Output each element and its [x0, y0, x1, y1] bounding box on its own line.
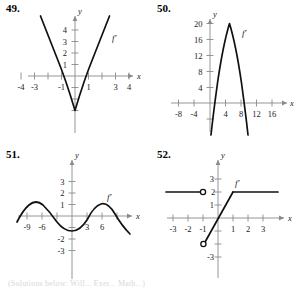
y-tick-label: 2 — [60, 188, 64, 198]
graph-50: -8 -4 4 8 12 16 4 8 12 16 20 x y f′ — [151, 0, 302, 146]
x-tick-label: -4 — [190, 109, 198, 119]
y-tick-label: 1 — [60, 200, 64, 210]
x-tick-label: -4 — [17, 82, 25, 92]
y-tick-label: 16 — [194, 35, 203, 45]
curve-fprime — [17, 202, 130, 234]
x-tick-label: 3 — [261, 224, 265, 234]
y-tick-label: 3 — [63, 37, 67, 47]
y-axis-arrow — [70, 160, 75, 165]
curve-label: f′ — [107, 192, 113, 202]
problem-grid: 49. — [0, 0, 302, 292]
open-point-lower — [201, 241, 206, 246]
x-tick-label: -1 — [199, 224, 206, 234]
y-tick-label: -2 — [57, 234, 64, 244]
x-axis-arrow — [279, 216, 284, 221]
problem-cell-50: 50. — [151, 0, 302, 146]
x-tick-label: 3 — [85, 222, 89, 232]
graph-50-svg: -8 -4 4 8 12 16 4 8 12 16 20 x y f′ — [151, 0, 302, 146]
x-tick-label: 16 — [268, 109, 277, 119]
y-tick-label: 1 — [63, 60, 67, 70]
x-axis-label: x — [289, 98, 294, 108]
y-tick-label: 8 — [198, 67, 202, 77]
x-tick-label: -6 — [38, 222, 45, 232]
x-tick-label: 8 — [239, 109, 243, 119]
page-caption: (Solutions below: Will... Exer... Math..… — [8, 279, 145, 288]
x-axis-label: x — [287, 213, 292, 223]
y-tick-label: 2 — [211, 187, 215, 197]
y-axis-arrow — [73, 16, 78, 21]
open-point-upper — [200, 189, 205, 194]
x-tick-label: 4 — [223, 109, 228, 119]
x-tick-label: 2 — [246, 224, 250, 234]
x-tick-label: -3 — [169, 224, 176, 234]
graph-52-svg: -3 -2 -1 1 2 3 1 2 3 -3 x y f′ — [151, 146, 302, 292]
x-tick-label: 4 — [127, 82, 132, 92]
y-tick-label: 20 — [194, 19, 203, 29]
graph-51: -9 -6 3 6 1 2 3 -2 -3 x y f′ — [0, 146, 151, 292]
y-tick-label: 12 — [194, 51, 203, 61]
y-axis-label: y — [77, 6, 82, 16]
graph-51-svg: -9 -6 3 6 1 2 3 -2 -3 x y f′ — [0, 146, 151, 292]
x-axis-arrow — [127, 214, 132, 219]
x-tick-label: -9 — [23, 222, 30, 232]
y-axis-arrow — [216, 160, 221, 165]
graph-52: -3 -2 -1 1 2 3 1 2 3 -3 x y f′ — [151, 146, 302, 292]
x-tick-label: -2 — [184, 224, 191, 234]
curve-label: f′ — [242, 28, 248, 38]
x-tick-label: -8 — [175, 109, 182, 119]
y-tick-label: 4 — [198, 83, 203, 93]
x-tick-label: 1 — [231, 224, 235, 234]
y-tick-label: 3 — [60, 177, 64, 187]
y-tick-label: -3 — [207, 252, 214, 262]
x-tick-label: 6 — [100, 222, 104, 232]
y-axis-label: y — [212, 9, 217, 19]
x-axis-label: x — [136, 71, 141, 81]
y-axis-label: y — [74, 150, 79, 160]
x-axis-label: x — [135, 211, 140, 221]
x-tick-label: 3 — [113, 82, 117, 92]
graph-49: -4 -3 -1 1 3 4 1 2 3 4 x y f′ — [0, 0, 151, 146]
graph-49-svg: -4 -3 -1 1 3 4 1 2 3 4 x y f′ — [0, 0, 151, 146]
x-axis-arrow — [282, 101, 287, 106]
curve-label: f′ — [112, 33, 118, 43]
problem-cell-49: 49. — [0, 0, 151, 146]
y-tick-label: 3 — [210, 174, 214, 184]
x-tick-label: -3 — [31, 82, 38, 92]
y-tick-label: 2 — [63, 48, 67, 58]
y-tick-label: 1 — [210, 200, 214, 210]
curve-label: f′ — [235, 178, 241, 188]
y-axis-label: y — [220, 150, 225, 160]
x-tick-label: -1 — [58, 82, 65, 92]
problem-cell-52: 52. — [151, 146, 302, 292]
problem-cell-51: 51. — [0, 146, 151, 292]
y-tick-label: 4 — [63, 25, 68, 35]
x-tick-label: 1 — [86, 82, 90, 92]
x-tick-label: 12 — [252, 109, 261, 119]
y-tick-label: -3 — [57, 246, 64, 256]
